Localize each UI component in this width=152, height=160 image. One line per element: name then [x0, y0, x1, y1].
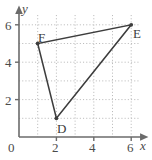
coordinate-plane-figure: y x 0 2 4 6 2 4 6 F E D	[0, 0, 152, 160]
axis-ticks	[15, 25, 131, 141]
x-tick-label-6: 6	[127, 141, 134, 154]
triangle-def	[36, 23, 133, 120]
vertex-d-marker	[55, 116, 59, 120]
x-tick-label-0: 0	[8, 141, 15, 154]
y-tick-label-4: 4	[5, 56, 12, 69]
vertex-label-e: E	[133, 27, 141, 40]
x-tick-label-2: 2	[52, 141, 59, 154]
plot-canvas	[0, 0, 152, 160]
vertex-label-d: D	[57, 122, 66, 135]
y-axis-label: y	[22, 2, 28, 15]
x-axis-label: x	[140, 139, 146, 152]
vertex-label-f: F	[38, 31, 45, 44]
y-tick-label-2: 2	[5, 94, 12, 107]
x-tick-label-4: 4	[89, 141, 96, 154]
y-tick-label-6: 6	[5, 19, 12, 32]
